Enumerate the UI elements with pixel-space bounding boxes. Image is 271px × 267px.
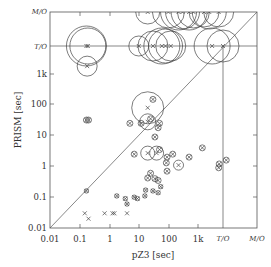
x-marker <box>146 151 150 155</box>
x-marker <box>165 155 169 159</box>
x-axis-label: pZ3 [sec] <box>132 250 175 260</box>
x-tick-labels: 0.01 0.1 1 10 100 1k T/O M/O <box>41 234 265 244</box>
svg-text:T/O: T/O <box>34 43 47 51</box>
svg-text:T/O: T/O <box>217 235 230 243</box>
svg-text:100: 100 <box>161 234 177 244</box>
x-marker <box>217 162 221 166</box>
svg-text:0.01: 0.01 <box>41 234 60 244</box>
svg-text:100: 100 <box>31 99 47 109</box>
svg-text:0.01: 0.01 <box>28 223 47 233</box>
variance-circle <box>152 0 184 28</box>
x-marker <box>149 171 153 175</box>
svg-text:M/O: M/O <box>31 8 48 16</box>
svg-text:1: 1 <box>42 161 47 171</box>
variance-circle <box>166 0 200 29</box>
svg-text:0.1: 0.1 <box>73 234 87 244</box>
svg-text:1k: 1k <box>193 234 204 244</box>
x-marker <box>84 118 88 122</box>
x-marker <box>155 151 159 155</box>
x-marker <box>224 158 228 162</box>
x-marker <box>132 152 136 156</box>
x-marker <box>87 118 91 122</box>
x-marker <box>125 211 129 215</box>
x-marker <box>187 155 191 159</box>
x-marker <box>200 146 204 150</box>
svg-text:10: 10 <box>134 234 145 244</box>
y-axis-label: PRISM [sec] <box>13 92 23 149</box>
x-marker <box>103 211 107 215</box>
x-marker <box>151 97 155 101</box>
scatter-plot: 0.01 0.1 1 10 100 1k T/O M/O 0.01 0.1 1 … <box>0 0 271 267</box>
y-tick-labels: 0.01 0.1 1 10 100 1k T/O M/O <box>28 8 48 233</box>
x-marker <box>153 135 157 139</box>
svg-text:0.1: 0.1 <box>33 192 47 202</box>
x-marker <box>128 121 132 125</box>
data-points <box>66 0 239 221</box>
x-marker <box>171 152 175 156</box>
x-marker <box>157 148 161 152</box>
x-marker <box>146 176 150 180</box>
svg-text:10: 10 <box>36 130 47 140</box>
x-marker <box>165 169 169 173</box>
x-marker <box>87 217 91 221</box>
x-marker <box>146 106 150 110</box>
x-marker <box>149 117 153 121</box>
x-marker <box>164 161 168 165</box>
x-marker <box>83 211 87 215</box>
x-marker <box>177 163 181 167</box>
variance-circle <box>177 0 209 28</box>
svg-text:M/O: M/O <box>248 235 265 243</box>
svg-text:1: 1 <box>107 234 112 244</box>
svg-text:1k: 1k <box>36 69 47 79</box>
